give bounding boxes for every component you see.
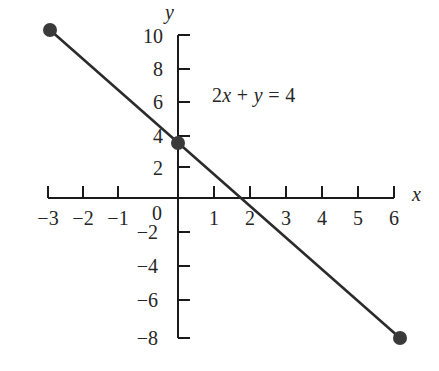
x-tick-label--2: −2 bbox=[63, 208, 103, 228]
equation-constant: 4 bbox=[285, 84, 295, 106]
x-tick-label--3: −3 bbox=[28, 208, 68, 228]
equation-equals: = bbox=[268, 84, 280, 106]
line-series-2x-plus-y-equals-4 bbox=[50, 30, 400, 338]
equation-var-x: x bbox=[222, 84, 231, 106]
point-marker-right-endpoint bbox=[393, 331, 407, 345]
x-tick-label-5: 5 bbox=[338, 208, 378, 228]
y-tick-label--8: −8 bbox=[112, 328, 158, 348]
x-tick-label-6: 6 bbox=[374, 208, 414, 228]
y-tick-label-4: 4 bbox=[117, 126, 163, 146]
equation-coefficient: 2 bbox=[212, 84, 222, 106]
equation-plus: + bbox=[237, 84, 249, 106]
equation-annotation: 2x + y = 4 bbox=[212, 85, 295, 105]
y-tick-label--6: −6 bbox=[112, 290, 158, 310]
y-tick-label-10: 10 bbox=[117, 26, 163, 46]
x-axis-label: x bbox=[412, 184, 421, 204]
equation-var-y: y bbox=[254, 84, 263, 106]
y-tick-label--4: −4 bbox=[112, 256, 158, 276]
y-axis-group bbox=[178, 35, 190, 338]
y-tick-label-8: 8 bbox=[117, 59, 163, 79]
y-tick-label-2: 2 bbox=[117, 158, 163, 178]
x-tick-label-0: 0 bbox=[137, 203, 177, 223]
x-tick-label-4: 4 bbox=[302, 208, 342, 228]
point-marker-left-endpoint bbox=[43, 23, 57, 37]
x-tick-label-1: 1 bbox=[194, 208, 234, 228]
graph-figure: y x 2x + y = 4 −3 −2 −1 0 1 2 3 4 5 6 10… bbox=[0, 0, 439, 371]
coordinate-plane bbox=[0, 0, 439, 371]
y-tick-label-6: 6 bbox=[117, 92, 163, 112]
x-tick-label-3: 3 bbox=[266, 208, 306, 228]
x-axis-group bbox=[48, 186, 394, 198]
y-tick-label--2: −2 bbox=[112, 222, 158, 242]
point-marker-y-intercept bbox=[171, 136, 185, 150]
x-tick-label-2: 2 bbox=[230, 208, 270, 228]
y-axis-label: y bbox=[165, 2, 174, 22]
